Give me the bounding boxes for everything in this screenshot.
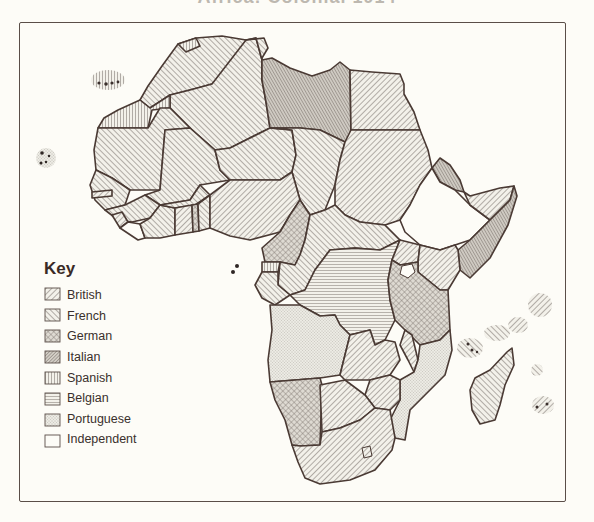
region-northern-rhodesia (340, 330, 400, 380)
region-gold-coast (175, 205, 193, 235)
key-item-british: British (44, 285, 137, 306)
key-item-spanish: Spanish (44, 367, 137, 388)
key-label: French (67, 309, 106, 323)
cape-verde-islands (36, 148, 56, 168)
key-label: Belgian (67, 391, 109, 405)
key-item-german: German (44, 326, 137, 347)
key-label: Portuguese (67, 412, 131, 426)
key-item-independent: Independent (44, 429, 137, 450)
region-madagascar (470, 348, 514, 424)
key-label: Independent (67, 432, 137, 446)
key-label: German (67, 329, 112, 343)
region-egypt (350, 70, 420, 130)
map-key: Key British French German Italian Spanis… (44, 259, 137, 450)
region-rio-muni (262, 262, 280, 272)
key-label: Italian (67, 350, 100, 364)
region-german-sw-africa (270, 378, 322, 446)
key-label: British (67, 288, 102, 302)
canary-islands (91, 70, 125, 90)
region-gambia (92, 190, 112, 198)
key-item-french: French (44, 306, 137, 327)
key-item-italian: Italian (44, 347, 137, 368)
key-heading: Key (44, 259, 137, 279)
region-basutoland (362, 446, 372, 458)
key-item-belgian: Belgian (44, 388, 137, 409)
key-label: Spanish (67, 371, 112, 385)
key-item-portuguese: Portuguese (44, 409, 137, 430)
